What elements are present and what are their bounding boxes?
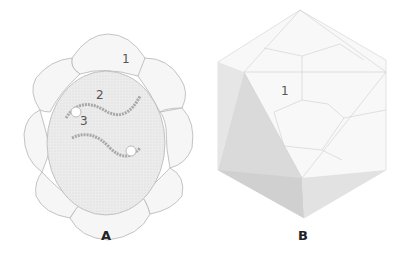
- caption-a: A: [101, 228, 111, 243]
- enzyme-particle: [126, 146, 136, 156]
- label-1: 1: [122, 52, 130, 66]
- icosahedron-drawing: [204, 0, 408, 258]
- figure-a-virus-cross-section: 1 2 3 A: [0, 0, 204, 258]
- caption-b: B: [298, 228, 308, 243]
- figure-b-icosahedral-capsid: 1 B: [204, 0, 408, 258]
- face-shaded: [218, 170, 304, 218]
- label-1: 1: [281, 84, 289, 98]
- label-2: 2: [96, 88, 104, 102]
- face-shaded: [302, 170, 386, 218]
- cross-section-drawing: [0, 0, 204, 258]
- label-3: 3: [80, 114, 88, 128]
